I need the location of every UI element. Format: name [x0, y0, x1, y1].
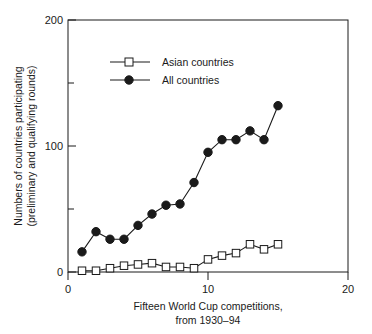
chart-figure: 0 100 200 0 10 20 Fifteen World Cup comp… — [0, 0, 372, 334]
x-axis-title-line2: from 1930–94 — [176, 314, 241, 326]
data-point-filled-circle — [204, 148, 212, 156]
data-point-filled-circle — [260, 136, 268, 144]
data-point-filled-circle — [92, 227, 100, 235]
data-point-filled-circle — [162, 201, 170, 209]
x-axis-ticks — [68, 272, 348, 280]
data-point-open-square — [78, 267, 86, 275]
data-point-filled-circle — [120, 235, 128, 243]
series-all-countries — [78, 101, 282, 256]
y-tick-label-200: 200 — [45, 14, 63, 26]
legend-marker-all-filled-circle-icon — [125, 76, 133, 84]
legend-label-asian: Asian countries — [162, 56, 234, 68]
data-point-filled-circle — [218, 136, 226, 144]
data-point-open-square — [190, 264, 198, 272]
chart-svg: 0 100 200 0 10 20 Fifteen World Cup comp… — [0, 0, 372, 334]
x-tick-label-10: 10 — [202, 283, 214, 295]
y-axis-title-line2: (preliminary and qualifying rounds) — [25, 65, 37, 226]
y-axis-ticks — [68, 20, 76, 272]
data-point-filled-circle — [246, 127, 254, 135]
data-point-open-square — [260, 246, 268, 254]
data-point-filled-circle — [232, 136, 240, 144]
data-point-filled-circle — [148, 210, 156, 218]
series-asian-countries — [78, 241, 282, 275]
data-point-filled-circle — [134, 221, 142, 229]
data-point-filled-circle — [78, 248, 86, 256]
x-tick-label-20: 20 — [342, 283, 354, 295]
legend-label-all: All countries — [162, 74, 219, 86]
y-axis-title-line1: Numbers of countries participating — [12, 66, 24, 225]
data-point-open-square — [92, 267, 100, 275]
y-tick-label-0: 0 — [57, 266, 63, 278]
data-point-filled-circle — [176, 200, 184, 208]
data-point-open-square — [162, 263, 170, 271]
data-point-filled-circle — [106, 235, 114, 243]
y-tick-label-100: 100 — [45, 140, 63, 152]
data-point-open-square — [204, 256, 212, 264]
data-point-open-square — [106, 264, 114, 272]
data-point-filled-circle — [274, 101, 282, 109]
data-series-layer — [78, 101, 282, 274]
data-point-open-square — [274, 241, 282, 249]
data-point-open-square — [232, 249, 240, 257]
data-point-open-square — [134, 261, 142, 269]
data-point-open-square — [120, 262, 128, 270]
data-point-open-square — [176, 263, 184, 271]
chart-legend: Asian countries All countries — [110, 56, 234, 86]
data-point-filled-circle — [190, 178, 198, 186]
x-tick-label-0: 0 — [65, 283, 71, 295]
data-point-open-square — [218, 252, 226, 260]
data-point-open-square — [148, 259, 156, 267]
data-point-open-square — [246, 241, 254, 249]
legend-marker-asian-open-square-icon — [125, 58, 133, 66]
x-axis-title-line1: Fifteen World Cup competitions, — [133, 300, 282, 312]
